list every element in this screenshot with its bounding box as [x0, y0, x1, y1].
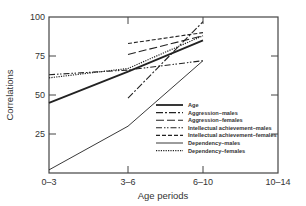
series-line-age: [49, 40, 203, 102]
legend-label: Aggression–females: [188, 117, 243, 123]
x-tick-label: 6–10: [193, 177, 213, 187]
y-tick-label: 50: [35, 90, 45, 100]
legend-label: Aggression–males: [188, 110, 238, 116]
y-tick-label: 100: [30, 12, 45, 22]
series-line-aggression-males: [128, 22, 203, 98]
legend-label: Dependency–females: [188, 148, 245, 154]
y-tick-label: 75: [35, 51, 45, 61]
legend-label: Intellectual achievement–males: [188, 125, 272, 131]
series-line-dependency-males: [49, 61, 203, 170]
legend: AgeAggression–malesAggression–femalesInt…: [156, 102, 277, 154]
correlation-line-chart: 2550751000–33–66–1010–14 AgeAggression–m…: [0, 0, 306, 206]
legend-label: Age: [188, 102, 199, 108]
legend-label: Intellectual achievement–females: [188, 132, 277, 138]
series-line-intellectual-achievement-females: [128, 33, 203, 44]
x-tick-label: 10–14: [265, 177, 290, 187]
x-axis-label: Age periods: [138, 190, 189, 201]
legend-label: Dependency–males: [188, 140, 240, 146]
x-tick-label: 0–3: [41, 177, 56, 187]
y-tick-label: 25: [35, 129, 45, 139]
x-tick-label: 3–6: [120, 177, 135, 187]
axis-ticks: 2550751000–33–66–1010–14: [30, 12, 291, 187]
y-axis-label: Correlations: [4, 69, 15, 120]
series-lines: [49, 22, 203, 170]
